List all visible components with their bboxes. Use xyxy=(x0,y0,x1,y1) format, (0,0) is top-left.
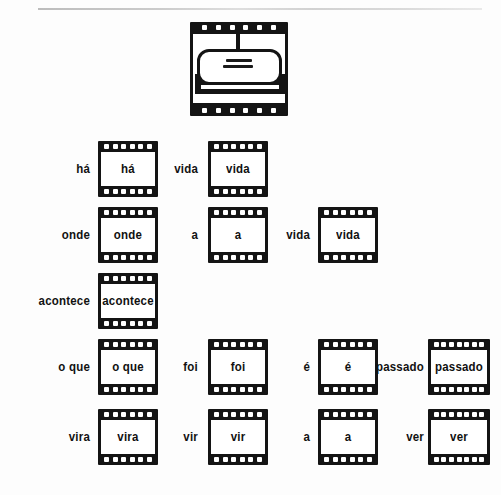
framed-word-text: vida xyxy=(336,229,360,242)
film-gate: é xyxy=(321,350,375,384)
framed-word-text: a xyxy=(345,431,352,444)
film-gate: ver xyxy=(431,420,487,454)
framed-word-text: vira xyxy=(117,431,138,444)
word-row: ondeondeaavidavida xyxy=(0,207,501,263)
word-label: vira xyxy=(69,431,90,444)
framed-word-text: vida xyxy=(226,163,250,176)
sprocket-holes-bottom xyxy=(98,187,158,196)
word-row: aconteceacontece xyxy=(0,273,501,329)
sprocket-holes-top xyxy=(98,142,158,151)
film-gate xyxy=(193,34,285,103)
word-label: onde xyxy=(62,229,90,242)
framed-word-text: foi xyxy=(231,361,246,374)
film-gate: vida xyxy=(321,218,375,252)
sprocket-holes-bottom xyxy=(208,187,268,196)
sprocket-holes-bottom xyxy=(318,385,378,394)
sprocket-holes-top xyxy=(318,340,378,349)
film-gate: a xyxy=(321,420,375,454)
sprocket-holes-bottom xyxy=(98,319,158,328)
framed-word-text: é xyxy=(345,361,352,374)
word-film-frame[interactable]: vir xyxy=(208,409,268,465)
sprocket-holes-top xyxy=(98,208,158,217)
speech-bubble-icon xyxy=(197,49,282,85)
word-label: o que xyxy=(58,361,90,374)
sprocket-holes-top xyxy=(190,23,288,32)
framed-word-text: onde xyxy=(114,229,142,242)
word-label: ver xyxy=(406,431,424,444)
sprocket-holes-bottom xyxy=(428,385,490,394)
film-gate: vida xyxy=(211,152,265,186)
word-film-frame[interactable]: é xyxy=(318,339,378,395)
sprocket-holes-bottom xyxy=(208,253,268,262)
sprocket-holes-top xyxy=(98,274,158,283)
word-label: vir xyxy=(183,431,198,444)
framed-word-text: ver xyxy=(450,431,468,444)
film-gate: vir xyxy=(211,420,265,454)
word-label: há xyxy=(76,163,90,176)
worksheet-page: háhávidavidaondeondeaavidavidaaconteceac… xyxy=(0,0,501,495)
sprocket-holes-bottom xyxy=(208,455,268,464)
sprocket-holes-top xyxy=(208,340,268,349)
word-label: é xyxy=(303,361,310,374)
film-gate: vira xyxy=(101,420,155,454)
word-film-frame[interactable]: onde xyxy=(98,207,158,263)
word-row: viraviravirviraaverver xyxy=(0,409,501,465)
sprocket-holes-top xyxy=(208,410,268,419)
word-label: a xyxy=(303,431,310,444)
film-gate: o que xyxy=(101,350,155,384)
framed-word-text: o que xyxy=(112,361,144,374)
sprocket-holes-top xyxy=(428,410,490,419)
sprocket-holes-top xyxy=(98,410,158,419)
film-gate: passado xyxy=(431,350,487,384)
sprocket-holes-top xyxy=(208,208,268,217)
word-label: vida xyxy=(174,163,198,176)
framed-word-text: acontece xyxy=(102,295,153,308)
sprocket-holes-bottom xyxy=(318,253,378,262)
framed-word-text: a xyxy=(235,229,242,242)
word-label: foi xyxy=(183,361,198,374)
word-label: passado xyxy=(376,361,424,374)
word-label: acontece xyxy=(39,295,90,308)
sprocket-holes-bottom xyxy=(98,253,158,262)
word-row: háhávidavida xyxy=(0,141,501,197)
sprocket-holes-top xyxy=(98,340,158,349)
word-film-frame[interactable]: a xyxy=(318,409,378,465)
sprocket-holes-top xyxy=(428,340,490,349)
framed-word-text: vir xyxy=(231,431,246,444)
word-label: a xyxy=(191,229,198,242)
sprocket-holes-bottom xyxy=(190,106,288,115)
word-film-frame[interactable]: o que xyxy=(98,339,158,395)
word-film-frame[interactable]: a xyxy=(208,207,268,263)
film-gate: há xyxy=(101,152,155,186)
header-film-frame-icon xyxy=(190,22,288,116)
film-gate: onde xyxy=(101,218,155,252)
sprocket-holes-bottom xyxy=(98,385,158,394)
word-label: vida xyxy=(286,229,310,242)
sprocket-holes-top xyxy=(318,208,378,217)
sprocket-holes-bottom xyxy=(428,455,490,464)
word-film-frame[interactable]: passado xyxy=(428,339,490,395)
top-divider-rule xyxy=(38,8,482,10)
sprocket-holes-bottom xyxy=(98,455,158,464)
word-film-frame[interactable]: vira xyxy=(98,409,158,465)
framed-word-text: passado xyxy=(435,361,483,374)
word-film-frame[interactable]: ver xyxy=(428,409,490,465)
word-film-frame[interactable]: vida xyxy=(208,141,268,197)
gate-highlight-bar xyxy=(201,85,279,89)
scribble-lines-icon xyxy=(223,59,257,68)
film-gate: a xyxy=(211,218,265,252)
sprocket-holes-top xyxy=(208,142,268,151)
word-film-frame[interactable]: acontece xyxy=(98,273,158,329)
sprocket-holes-bottom xyxy=(318,455,378,464)
word-film-frame[interactable]: há xyxy=(98,141,158,197)
word-film-frame[interactable]: vida xyxy=(318,207,378,263)
film-gate: acontece xyxy=(101,284,155,318)
film-gate: foi xyxy=(211,350,265,384)
sprocket-holes-top xyxy=(318,410,378,419)
word-film-frame[interactable]: foi xyxy=(208,339,268,395)
word-row: o queo quefoifoiéépassadopassado xyxy=(0,339,501,395)
framed-word-text: há xyxy=(121,163,135,176)
sprocket-holes-bottom xyxy=(208,385,268,394)
